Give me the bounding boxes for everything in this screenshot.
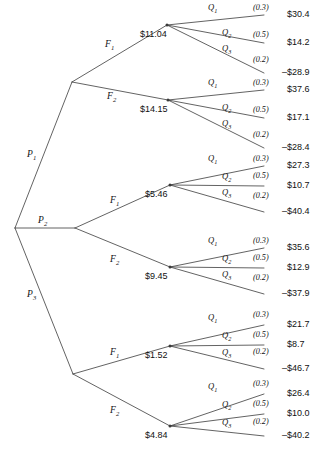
payoff-p2f2-q2: $12.9 (287, 263, 310, 272)
payoff-p1f1-q2: $14.2 (287, 38, 310, 47)
node-value-p1f1: $11.04 (140, 30, 167, 39)
prob-label-p3f2-q1: (0.3) (253, 380, 269, 388)
prob-label-p3f2-q2: (0.5) (253, 400, 269, 408)
branch-label-p1: P1 (27, 150, 36, 161)
prob-label-p2f2-q3: (0.2) (253, 274, 269, 282)
chance-label-p2f1-q1: Q1 (208, 154, 217, 165)
payoff-p3f2-q1: $26.4 (287, 389, 310, 398)
prob-label-p1f2-q1: (0.3) (253, 79, 269, 87)
payoff-p1f1-q3: –$28.9 (282, 68, 310, 77)
edge-p1f1-q2 (167, 25, 264, 43)
edge-p1f2-q3 (168, 100, 264, 148)
chance-label-p2f2-q3: Q3 (222, 270, 231, 281)
payoff-p2f1-q3: –$40.4 (282, 207, 310, 216)
edge-p1f2-q1 (168, 90, 264, 100)
payoff-p2f1-q1: $27.3 (287, 161, 310, 170)
chance-label-p2f2-q1: Q1 (208, 236, 217, 247)
payoff-p2f2-q1: $35.6 (287, 243, 310, 252)
node-value-p3f1: $1.52 (145, 351, 168, 360)
prob-label-p2f2-q2: (0.5) (253, 254, 269, 262)
edge-p1 (15, 82, 72, 228)
edge-p3f1-q1 (170, 325, 264, 346)
edge-p1f2-q2 (168, 100, 264, 118)
chance-node-p2f1 (169, 184, 172, 187)
edge-p3f1-q2 (170, 345, 264, 346)
branch-label-p3-f2: F2 (110, 406, 119, 417)
chance-label-p1f1-q3: Q3 (222, 44, 231, 55)
chance-label-p3f1-q3: Q3 (222, 348, 231, 359)
edge-p1f1-q1 (167, 15, 264, 25)
prob-label-p3f1-q3: (0.2) (253, 348, 269, 356)
chance-label-p1f2-q1: Q1 (208, 78, 217, 89)
prob-label-p1f2-q2: (0.5) (253, 106, 269, 114)
prob-label-p2f1-q3: (0.2) (253, 192, 269, 200)
edge-p2-f2 (75, 228, 170, 267)
prob-label-p3f2-q3: (0.2) (253, 418, 269, 426)
payoff-p3f2-q2: $10.0 (287, 409, 310, 418)
chance-label-p3f1-q1: Q1 (208, 313, 217, 324)
edge-p2f2-q1 (170, 248, 264, 267)
prob-label-p3f1-q1: (0.3) (253, 311, 269, 319)
chance-label-p2f1-q2: Q2 (222, 172, 231, 183)
edge-p2f2-q3 (170, 267, 264, 294)
branch-label-p3: P3 (27, 290, 36, 301)
edge-p2f2-q2 (170, 267, 264, 268)
payoff-p3f1-q3: –$46.7 (282, 364, 310, 373)
chance-label-p1f1-q1: Q1 (208, 3, 217, 14)
payoff-p3f1-q2: $8.7 (287, 340, 305, 349)
payoff-p1f2-q3: –$28.4 (282, 143, 310, 152)
chance-node-p1f2 (167, 99, 170, 102)
branch-label-p2: P2 (38, 216, 47, 227)
branch-label-p2-f2: F2 (110, 255, 119, 266)
chance-node-p2f2 (169, 266, 172, 269)
prob-label-p3f1-q2: (0.5) (253, 331, 269, 339)
prob-label-p2f1-q1: (0.3) (253, 155, 269, 163)
chance-node-p3f2 (169, 425, 172, 428)
branch-label-p3-f1: F1 (110, 348, 119, 359)
node-value-p2f2: $9.45 (145, 272, 168, 281)
node-value-p2f1: $5.46 (145, 190, 168, 199)
chance-label-p3f1-q2: Q2 (222, 331, 231, 342)
edge-p2f1-q2 (170, 185, 264, 186)
prob-label-p1f2-q3: (0.2) (253, 131, 269, 139)
chance-label-p2f2-q2: Q2 (222, 254, 231, 265)
payoff-p3f2-q3: –$40.2 (282, 431, 310, 440)
prob-label-p1f1-q2: (0.5) (253, 31, 269, 39)
chance-label-p2f1-q3: Q3 (222, 188, 231, 199)
payoff-p3f1-q1: $21.7 (287, 320, 310, 329)
branch-label-p1-f2: F2 (107, 92, 116, 103)
chance-label-p3f2-q1: Q1 (208, 382, 217, 393)
payoff-p1f2-q1: $37.6 (287, 85, 310, 94)
branch-label-p1-f1: F1 (105, 40, 114, 51)
prob-label-p2f1-q2: (0.5) (253, 172, 269, 180)
prob-label-p1f1-q1: (0.3) (253, 4, 269, 12)
edge-p3-f2 (73, 374, 170, 426)
chance-node-p3f1 (169, 345, 172, 348)
payoff-p1f2-q2: $17.1 (287, 113, 310, 122)
edge-p3f1-q3 (170, 346, 264, 369)
payoff-p2f1-q2: $10.7 (287, 181, 310, 190)
node-value-p1f2: $14.15 (140, 105, 168, 114)
edge-p3f2-q3 (170, 426, 264, 436)
chance-label-p1f2-q2: Q2 (222, 103, 231, 114)
edge-p3f2-q1 (170, 394, 264, 426)
edge-p3 (15, 228, 73, 374)
chance-label-p1f1-q2: Q2 (222, 28, 231, 39)
decision-tree-figure: P1 P2 P3 F1 F2 F1 F2 F1 F2 $11.04 $14.15… (0, 0, 332, 449)
edge-p1-f2 (72, 82, 168, 100)
payoff-p2f2-q3: –$37.9 (282, 289, 310, 298)
chance-label-p3f2-q2: Q2 (222, 400, 231, 411)
chance-label-p1f2-q3: Q3 (222, 119, 231, 130)
node-value-p3f2: $4.84 (145, 431, 168, 440)
prob-label-p1f1-q3: (0.2) (253, 56, 269, 64)
chance-node-p1f1 (166, 24, 169, 27)
chance-label-p3f2-q3: Q3 (222, 418, 231, 429)
edge-p3f2-q2 (170, 414, 264, 426)
payoff-p1f1-q1: $30.4 (287, 10, 310, 19)
prob-label-p2f2-q1: (0.3) (253, 237, 269, 245)
branch-label-p2-f1: F1 (110, 196, 119, 207)
edge-p1f1-q3 (167, 25, 264, 73)
edge-p2f1-q1 (170, 166, 264, 185)
edge-p2f1-q3 (170, 185, 264, 212)
